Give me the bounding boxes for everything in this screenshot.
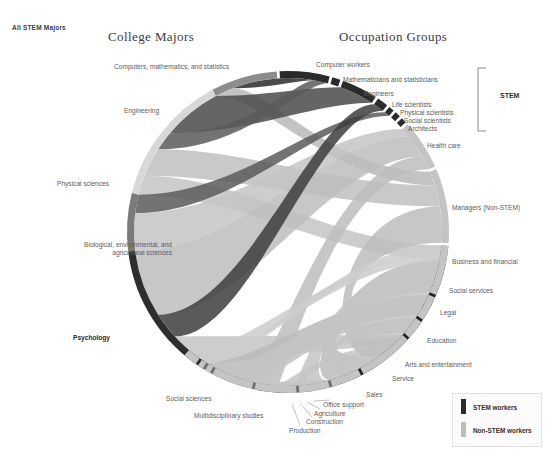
chord-diagram-canvas: All STEM Majors College Majors Occupatio… [0,0,550,464]
stem-bracket-label: STEM [500,92,519,99]
major-label-multidisciplinary-studies[interactable]: Multidisciplinary studies [194,412,263,420]
occupation-label-architects[interactable]: Architects [408,125,437,133]
occupation-label-education[interactable]: Education [427,337,456,345]
stem-bracket [478,68,486,131]
occupation-label-service[interactable]: Service [392,375,414,383]
legend-swatch-stem [461,399,466,414]
occupation-label-engineers[interactable]: Engineers [364,90,394,98]
occupation-label-construction[interactable]: Construction [306,418,343,426]
legend-label-stem: STEM workers [473,404,517,411]
major-label-social-sciences[interactable]: Social sciences [166,395,211,403]
chart-subtitle-tag: All STEM Majors [12,24,66,31]
major-label-psychology[interactable]: Psychology [73,334,110,342]
occupation-label-business-and-financial[interactable]: Business and financial [452,258,518,266]
major-label-computers-mathematics-and-statistics[interactable]: Computers, mathematics, and statistics [114,63,229,71]
occupation-label-office-support[interactable]: Office support [323,401,364,409]
occupation-label-social-services[interactable]: Social services [449,287,493,295]
ribbon-group [134,78,442,386]
major-label-engineering[interactable]: Engineering [124,107,159,115]
occupation-label-health-care[interactable]: Health care [427,142,461,150]
occupation-label-legal[interactable]: Legal [440,309,456,317]
leader-line-agriculture [307,402,320,409]
left-column-title: College Majors [108,29,194,45]
occupation-label-mathematicians-and-statisticians[interactable]: Mathematicians and statisticians [343,76,438,84]
occupation-arc-5[interactable] [391,112,400,121]
legend: STEM workers Non-STEM workers [452,393,542,447]
occupation-label-managers-non-stem[interactable]: Managers (Non-STEM) [452,204,520,212]
leader-line-construction [300,403,312,417]
leader-line-production [292,404,300,425]
occupation-label-sales[interactable]: Sales [366,391,383,399]
major-label-biological-environmental-and-agricultural-sciences[interactable]: Biological, environmental, and agricultu… [80,241,172,258]
legend-swatch-nonstem [461,422,466,437]
occupation-arc-1[interactable] [330,77,340,86]
major-label-physical-sciences[interactable]: Physical sciences [57,180,109,188]
legend-label-nonstem: Non-STEM workers [473,427,532,434]
right-column-title: Occupation Groups [339,29,447,45]
occupation-label-arts-and-entertainment[interactable]: Arts and entertainment [405,361,472,369]
occupation-label-computer-workers[interactable]: Computer workers [316,61,370,69]
occupation-label-production[interactable]: Production [289,427,321,435]
